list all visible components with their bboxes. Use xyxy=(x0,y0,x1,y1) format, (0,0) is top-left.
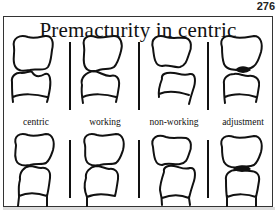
upper-tooth-adjustment-bottom xyxy=(221,136,261,167)
frame-shadow xyxy=(3,207,275,210)
lower-tooth-adjustment-top xyxy=(224,67,259,103)
lower-tooth-working-bottom xyxy=(85,166,119,206)
upper-tooth-centric-top xyxy=(14,36,53,71)
lower-tooth-working-top xyxy=(82,71,120,103)
upper-tooth-centric-bottom xyxy=(15,134,54,165)
teeth-illustrations xyxy=(0,0,277,215)
lower-tooth-non-working-bottom xyxy=(160,166,195,205)
lower-tooth-centric-top xyxy=(12,71,50,102)
lower-tooth-centric-bottom xyxy=(18,166,50,206)
upper-tooth-working-bottom xyxy=(84,134,123,165)
lower-tooth-adjustment-bottom xyxy=(226,166,259,206)
lower-tooth-non-working-top xyxy=(159,73,195,104)
upper-tooth-non-working-bottom xyxy=(152,136,191,165)
upper-tooth-non-working-top xyxy=(152,36,191,67)
upper-tooth-working-top xyxy=(84,36,122,71)
upper-tooth-adjustment-top xyxy=(221,36,261,70)
